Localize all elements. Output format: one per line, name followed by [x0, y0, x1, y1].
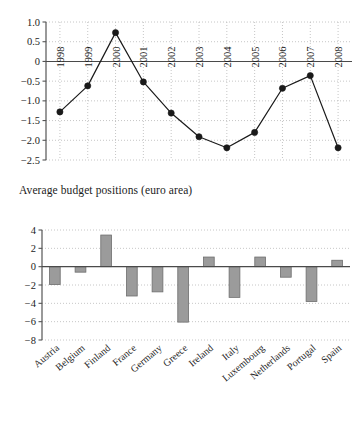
- data-point-marker: [140, 79, 146, 85]
- x-axis-year-label: 2000: [111, 46, 122, 67]
- y-tick-label: −0.5: [21, 76, 40, 87]
- bar: [255, 257, 266, 267]
- data-point-marker: [335, 145, 341, 151]
- x-axis-year-label: 2006: [277, 46, 288, 67]
- bar: [75, 267, 86, 273]
- y-tick-label: −2.0: [21, 135, 40, 146]
- data-point-marker: [307, 73, 313, 79]
- y-tick-label: 4: [31, 225, 37, 236]
- bar-chart-plot-area: 420−2−4−6−8AustriaBelgiumFinlandFranceGe…: [0, 212, 363, 392]
- data-point-marker: [112, 30, 118, 36]
- x-axis-country-label: Belgium: [53, 342, 87, 373]
- line-chart-plot-area: 1.00.50−0.5−1.0−1.5−2.0−2.51998199920002…: [0, 0, 363, 180]
- bar: [306, 267, 317, 302]
- data-point-marker: [85, 83, 91, 89]
- y-tick-label: −2.5: [21, 155, 40, 166]
- y-tick-label: −1.5: [21, 115, 40, 126]
- bar: [178, 267, 189, 322]
- y-tick-label: 0.5: [27, 36, 40, 47]
- x-axis-country-label: Spain: [319, 342, 344, 365]
- y-tick-label: −4: [25, 298, 37, 309]
- x-axis-year-label: 2001: [138, 46, 149, 67]
- x-axis-year-label: 1999: [83, 46, 94, 67]
- bar-chart-svg: 420−2−4−6−8AustriaBelgiumFinlandFranceGe…: [0, 212, 363, 392]
- y-tick-label: −2: [25, 280, 36, 291]
- y-tick-label: 0: [35, 56, 40, 67]
- x-axis-country-label: Finland: [82, 342, 112, 370]
- data-point-marker: [279, 85, 285, 91]
- data-point-marker: [57, 109, 63, 115]
- x-axis-year-label: 2007: [305, 46, 316, 67]
- y-tick-label: −6: [25, 316, 36, 327]
- y-tick-label: −1.0: [21, 95, 40, 106]
- x-axis-year-label: 2005: [250, 46, 261, 67]
- line-chart-svg: 1.00.50−0.5−1.0−1.5−2.0−2.51998199920002…: [0, 0, 363, 180]
- x-axis-country-label: Greece: [161, 342, 190, 369]
- y-tick-label: 2: [31, 243, 36, 254]
- data-point-marker: [196, 134, 202, 140]
- bar: [229, 267, 240, 298]
- y-tick-label: 1.0: [27, 17, 40, 28]
- x-axis-year-label: 2003: [194, 46, 205, 67]
- line-chart-caption: Average budget positions (euro area): [19, 184, 192, 196]
- data-point-marker: [252, 129, 258, 135]
- bar: [126, 267, 137, 296]
- bar: [101, 235, 112, 267]
- y-tick-label: 0: [31, 261, 36, 272]
- x-axis-country-label: Portugal: [285, 342, 318, 372]
- x-axis-year-label: 2002: [166, 46, 177, 67]
- x-axis-year-label: 2004: [222, 46, 233, 68]
- line-chart-figure: 1.00.50−0.5−1.0−1.5−2.0−2.51998199920002…: [0, 0, 363, 212]
- x-axis-year-label: 2008: [333, 46, 344, 67]
- data-point-marker: [168, 110, 174, 116]
- bar: [203, 257, 214, 267]
- x-axis-country-label: Ireland: [186, 342, 215, 369]
- bar: [152, 267, 163, 292]
- bar-chart-figure: 420−2−4−6−8AustriaBelgiumFinlandFranceGe…: [0, 212, 363, 424]
- bar: [332, 260, 343, 266]
- bar: [280, 267, 291, 278]
- y-tick-label: −8: [25, 335, 36, 346]
- bar: [49, 267, 60, 285]
- x-axis-year-label: 1998: [55, 46, 66, 67]
- data-point-marker: [224, 145, 230, 151]
